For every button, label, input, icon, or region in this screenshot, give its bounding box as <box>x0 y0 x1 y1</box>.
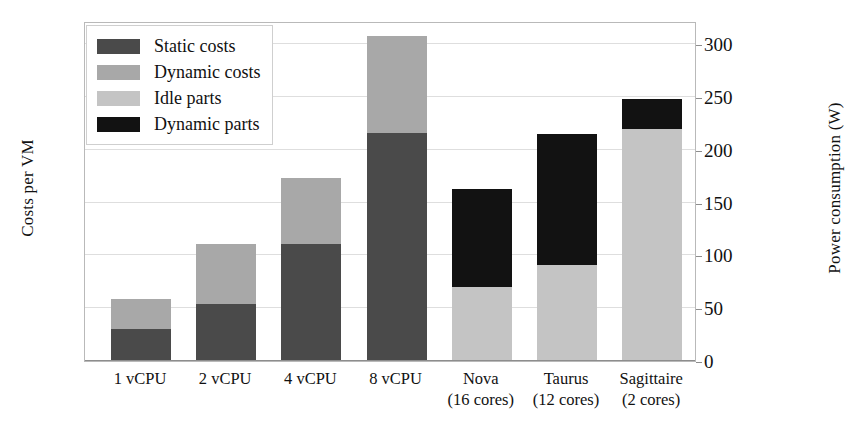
y-tick-mark <box>696 151 702 152</box>
bar <box>537 134 597 361</box>
legend-item: Idle parts <box>97 85 260 111</box>
bar-segment <box>622 99 682 129</box>
y-tick-mark <box>696 256 702 257</box>
axis-baseline <box>85 360 695 361</box>
x-tick-label-line1: 1 vCPU <box>114 369 167 388</box>
legend-label: Static costs <box>154 36 236 57</box>
bar-segment <box>111 299 171 330</box>
x-tick-label-line1: Nova <box>463 369 499 388</box>
legend-item: Static costs <box>97 33 260 59</box>
x-tick-label-line1: Taurus <box>544 369 589 388</box>
y-tick-label: 0 <box>704 351 764 373</box>
legend-label: Dynamic costs <box>154 62 260 83</box>
legend-item: Dynamic parts <box>97 111 260 137</box>
y-tick-label: 150 <box>704 193 764 215</box>
bar <box>281 178 341 361</box>
legend-swatch <box>97 39 140 54</box>
bar-segment <box>537 265 597 361</box>
x-tick-label-line2: (2 cores) <box>599 389 703 410</box>
x-tick-label-line1: Sagittaire <box>620 369 683 388</box>
bar-segment <box>367 133 427 361</box>
chart-figure: Costs per VM Power consumption (W) 05010… <box>0 0 845 427</box>
bar <box>367 36 427 361</box>
y-tick-mark <box>696 98 702 99</box>
y-tick-mark <box>696 309 702 310</box>
y-tick-label: 100 <box>704 245 764 267</box>
y-tick-label: 250 <box>704 87 764 109</box>
y-axis-left-title: Costs per VM <box>18 98 38 278</box>
bar-segment <box>281 178 341 243</box>
legend-label: Dynamic parts <box>154 114 259 135</box>
legend-label: Idle parts <box>154 88 221 109</box>
chart-legend: Static costsDynamic costsIdle partsDynam… <box>86 25 273 145</box>
x-tick-label: Sagittaire(2 cores) <box>599 368 703 410</box>
x-tick-label-line1: 4 vCPU <box>284 369 337 388</box>
bar <box>111 299 171 361</box>
x-tick-label-line1: 2 vCPU <box>199 369 252 388</box>
x-tick-label-line1: 8 vCPU <box>369 369 422 388</box>
bar-segment <box>452 287 512 361</box>
bar-segment <box>622 129 682 361</box>
bar <box>196 244 256 361</box>
bar-segment <box>281 244 341 361</box>
bar-segment <box>196 244 256 304</box>
y-tick-label: 300 <box>704 34 764 56</box>
bar-segment <box>452 189 512 287</box>
y-tick-label: 50 <box>704 298 764 320</box>
bar <box>452 189 512 361</box>
y-tick-label: 200 <box>704 140 764 162</box>
bar-segment <box>196 304 256 361</box>
y-tick-mark <box>696 362 702 363</box>
legend-item: Dynamic costs <box>97 59 260 85</box>
y-axis-right-title: Power consumption (W) <box>825 58 845 318</box>
bar-segment <box>111 329 171 361</box>
bar-segment <box>367 36 427 133</box>
y-tick-mark <box>696 45 702 46</box>
bar-segment <box>537 134 597 265</box>
y-tick-mark <box>696 204 702 205</box>
legend-swatch <box>97 117 140 132</box>
bar <box>622 99 682 361</box>
legend-swatch <box>97 91 140 106</box>
legend-swatch <box>97 65 140 80</box>
